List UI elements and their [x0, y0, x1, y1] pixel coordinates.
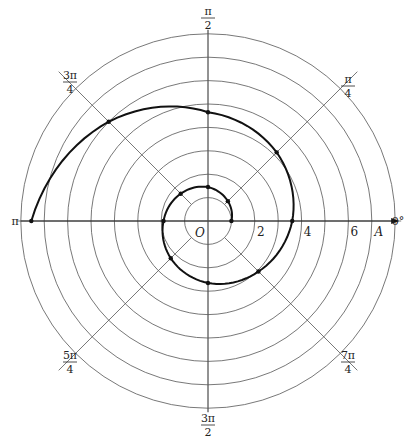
svg-text:5π: 5π	[63, 349, 77, 362]
data-point-4	[161, 219, 165, 223]
svg-text:4: 4	[345, 87, 352, 100]
svg-text:4: 4	[67, 363, 74, 376]
polar-plot: 0°π4π23π4π5π43π27π4246OA	[0, 0, 412, 447]
data-point-2	[206, 185, 210, 189]
data-point-8	[290, 219, 294, 223]
angle-label-270: 3π2	[201, 412, 215, 439]
svg-text:2: 2	[205, 19, 212, 32]
data-point-5	[169, 256, 173, 260]
angle-label-0: 0°	[392, 215, 405, 228]
svg-text:2: 2	[205, 426, 212, 439]
axis-label-A: A	[373, 225, 383, 239]
svg-text:4: 4	[345, 363, 352, 376]
angle-label-135: 3π4	[63, 69, 77, 96]
spiral-path	[31, 106, 293, 284]
svg-text:π: π	[344, 73, 351, 86]
angle-label-90: π2	[201, 5, 215, 32]
data-point-1	[226, 199, 230, 203]
origin-label: O	[195, 226, 205, 240]
svg-text:4: 4	[67, 83, 74, 96]
data-point-10	[206, 110, 210, 114]
radial-line-315	[225, 238, 358, 371]
angle-label-315: 7π4	[341, 349, 355, 376]
radial-line-135	[59, 72, 192, 205]
spiral-curve	[29, 106, 294, 285]
data-point-9	[274, 150, 278, 154]
radial-tick-2: 2	[257, 225, 265, 239]
svg-text:3π: 3π	[201, 412, 215, 425]
data-point-7	[256, 269, 260, 273]
radial-tick-6: 6	[351, 225, 359, 239]
data-point-6	[206, 281, 210, 285]
angle-label-180: π	[11, 215, 18, 228]
angle-label-225: 5π4	[63, 349, 77, 376]
svg-text:0°: 0°	[392, 215, 405, 228]
svg-text:3π: 3π	[63, 69, 77, 82]
angle-label-45: π4	[341, 73, 355, 100]
svg-text:π: π	[11, 215, 18, 228]
svg-text:π: π	[204, 5, 211, 18]
data-point-12	[29, 219, 33, 223]
svg-text:7π: 7π	[341, 349, 355, 362]
radial-tick-4: 4	[304, 225, 312, 239]
data-point-3	[178, 191, 182, 195]
data-point-0	[229, 219, 233, 223]
data-point-11	[107, 120, 111, 124]
